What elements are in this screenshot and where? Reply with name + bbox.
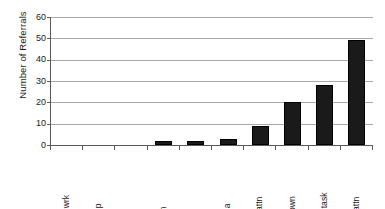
x-tick-mark <box>275 145 276 150</box>
bar-slot <box>51 17 83 145</box>
y-tick-label-20: 20 <box>26 98 46 107</box>
x-tick-mark <box>308 145 309 150</box>
x-tick-mark <box>372 145 373 150</box>
x-label-slot: Unknown <box>275 151 307 209</box>
bar-chart: Number of Referrals 0102030405060 Avoid … <box>0 0 385 209</box>
x-tick-mark <box>179 145 180 150</box>
bar-slot <box>244 17 276 145</box>
plot-area <box>50 17 373 145</box>
y-tick-label-0: 0 <box>26 141 46 150</box>
x-axis-label-other: Other <box>189 174 201 209</box>
bars-container <box>51 17 373 145</box>
y-tick-label-10: 10 <box>26 119 46 128</box>
x-label-slot: Avoid wrk <box>50 151 82 209</box>
bar[interactable] <box>252 126 269 145</box>
y-tick-label-60: 60 <box>26 13 46 22</box>
bar-slot <box>341 17 373 145</box>
y-tick-label-40: 40 <box>26 55 46 64</box>
x-label-slot: DK <box>114 151 146 209</box>
x-axis-label-ob-a-attn: Ob a attn <box>253 174 265 209</box>
x-label-slot: Ob itm <box>147 151 179 209</box>
y-tick-label-50: 50 <box>26 34 46 43</box>
bar-slot <box>83 17 115 145</box>
x-axis-label-ob-p-attn: Ob p attn <box>350 174 362 209</box>
x-tick-mark <box>147 145 148 150</box>
y-axis-tick-labels: 0102030405060 <box>26 11 46 145</box>
x-label-slot: Ob p attn <box>340 151 372 209</box>
x-axis-label-avoid-p: Avoid p <box>92 174 104 209</box>
y-tick-label-30: 30 <box>26 77 46 86</box>
bar-slot <box>180 17 212 145</box>
x-axis-label-dk: DK <box>125 174 137 209</box>
bar-slot <box>115 17 147 145</box>
x-tick-mark <box>243 145 244 150</box>
x-tick-mark <box>50 145 51 150</box>
x-axis-category-labels: Avoid wrkAvoid pDKOb itmOtherAvoid aOb a… <box>50 151 372 209</box>
x-label-slot: Avoid task <box>308 151 340 209</box>
x-axis-label-avoid-a: Avoid a <box>221 174 233 209</box>
x-tick-mark <box>211 145 212 150</box>
bar-slot <box>212 17 244 145</box>
x-axis-label-unknown: Unknown <box>286 174 298 209</box>
x-label-slot: Ob a attn <box>243 151 275 209</box>
bar-slot <box>148 17 180 145</box>
x-axis-label-avoid-task: Avoid task <box>318 174 330 209</box>
x-axis-tick-marks <box>50 145 372 150</box>
x-label-slot: Avoid p <box>82 151 114 209</box>
x-axis-label-ob-itm: Ob itm <box>157 174 169 209</box>
x-tick-mark <box>340 145 341 150</box>
bar[interactable] <box>348 40 365 145</box>
x-label-slot: Avoid a <box>211 151 243 209</box>
bar[interactable] <box>284 102 301 145</box>
bar-slot <box>276 17 308 145</box>
bar-slot <box>309 17 341 145</box>
x-label-slot: Other <box>179 151 211 209</box>
x-axis-label-avoid-wrk: Avoid wrk <box>60 174 72 209</box>
bar[interactable] <box>316 85 333 145</box>
x-tick-mark <box>114 145 115 150</box>
x-tick-mark <box>82 145 83 150</box>
